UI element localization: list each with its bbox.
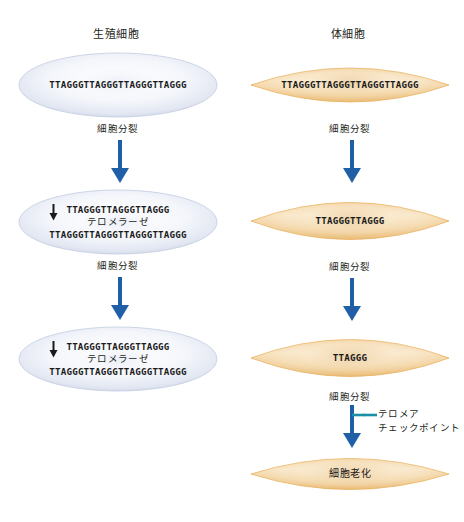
germ-cell-1-sequence-1: TTAGGGTTAGGGTTAGGGTTAGGG xyxy=(49,79,187,91)
column-title-germ-cell: 生殖細胞 xyxy=(16,25,216,41)
checkpoint-label-line1: テロメア xyxy=(378,407,460,421)
germ-cell-3: TTAGGGTTAGGGTTAGGG テロメラーゼ TTAGGGTTAGGGTT… xyxy=(18,326,218,392)
germ-cell-2: TTAGGGTTAGGGTTAGGG テロメラーゼ TTAGGGTTAGGGTT… xyxy=(18,189,218,255)
germ-cell-1: TTAGGGTTAGGGTTAGGGTTAGGG xyxy=(18,52,218,118)
step-label-soma-division-2: 細胞分裂 xyxy=(270,259,430,273)
checkpoint-callout: テロメア チェックポイント xyxy=(378,407,460,435)
flow-arrow-soma-2 xyxy=(340,278,364,322)
somatic-cell-1: TTAGGGTTAGGGTTAGGGTTAGGG xyxy=(250,52,450,118)
somatic-cell-4-label: 細胞老化 xyxy=(329,468,371,481)
column-title-somatic-cell: 体細胞 xyxy=(248,25,448,41)
step-label-germ-division-1: 細胞分裂 xyxy=(38,121,198,135)
flow-arrow-germ-2 xyxy=(108,277,132,321)
somatic-cell-4-senescent: 細胞老化 xyxy=(250,444,450,504)
somatic-cell-2-sequence: TTAGGGTTAGGG xyxy=(316,215,385,227)
flow-arrow-germ-1 xyxy=(108,140,132,184)
step-label-soma-division-3: 細胞分裂 xyxy=(270,389,430,403)
checkpoint-label-line2: チェックポイント xyxy=(378,421,460,435)
somatic-cell-3: TTAGGG xyxy=(250,322,450,394)
somatic-cell-2: TTAGGGTTAGGG xyxy=(250,185,450,257)
germ-cell-2-content: TTAGGGTTAGGGTTAGGG テロメラーゼ TTAGGGTTAGGGTT… xyxy=(49,204,187,241)
telomerase-row-2: テロメラーゼ xyxy=(49,216,187,228)
telomerase-row-3: テロメラーゼ xyxy=(49,353,187,365)
somatic-cell-1-sequence: TTAGGGTTAGGGTTAGGGTTAGGG xyxy=(281,79,419,91)
telomerase-arrow-icon xyxy=(49,204,187,241)
telomere-diagram: 生殖細胞 体細胞 TTAGGGTTAGGGTTAGGGTTAGGG 細胞分裂 T… xyxy=(0,0,464,522)
germ-cell-3-content: TTAGGGTTAGGGTTAGGG テロメラーゼ TTAGGGTTAGGGTT… xyxy=(49,341,187,378)
step-label-germ-division-2: 細胞分裂 xyxy=(38,258,198,272)
checkpoint-branch-line xyxy=(363,413,377,419)
somatic-cell-3-sequence: TTAGGG xyxy=(333,352,367,364)
step-label-soma-division-1: 細胞分裂 xyxy=(270,121,430,135)
flow-arrow-soma-3-checkpoint xyxy=(340,405,364,449)
telomerase-arrow-icon xyxy=(49,341,187,378)
flow-arrow-soma-1 xyxy=(340,140,364,184)
